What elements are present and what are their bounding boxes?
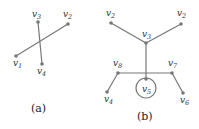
caption-b: (b) — [137, 110, 153, 123]
label-v5: v5 — [142, 84, 151, 96]
edge-v2-v3 — [146, 24, 181, 43]
label-v4: v4 — [104, 94, 113, 106]
node-v5 — [144, 77, 148, 81]
panel-b: v2 v2 v3 v8 v7 v5 v4 v6 (b) — [104, 8, 189, 123]
label-v3: v3 — [142, 29, 151, 41]
edge-v8-v4 — [107, 73, 118, 92]
node-v2 — [179, 22, 183, 26]
edge-v1-v3 — [111, 23, 146, 43]
label-v6: v6 — [180, 95, 189, 107]
label-v2: v2 — [177, 8, 186, 20]
diagram: v3 v2 v1 v4 (a) v2 v2 v3 v8 v7 v5 v4 v6 … — [0, 0, 199, 129]
label-v8: v8 — [113, 58, 122, 70]
label-v1: v1 — [13, 58, 22, 70]
node-v1 — [109, 21, 113, 25]
caption-a: (a) — [31, 102, 46, 115]
label-v3: v3 — [32, 9, 41, 21]
label-v4: v4 — [37, 66, 46, 78]
label-v7: v7 — [168, 58, 178, 70]
label-v1: v2 — [106, 8, 115, 20]
panel-a: v3 v2 v1 v4 (a) — [13, 9, 72, 115]
node-v3 — [144, 41, 148, 45]
label-v2: v2 — [63, 9, 72, 21]
edge-v1-v2 — [16, 24, 68, 56]
node-v2 — [66, 22, 70, 26]
edge-v3-v4 — [38, 22, 42, 64]
node-v7 — [170, 71, 174, 75]
node-v8 — [116, 71, 120, 75]
edge-v7-v6 — [172, 73, 183, 93]
